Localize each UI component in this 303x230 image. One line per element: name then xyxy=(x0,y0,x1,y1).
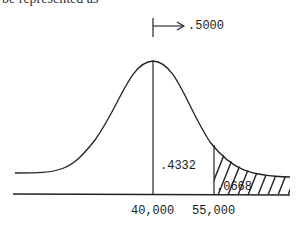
x-axis-baseline xyxy=(13,194,290,195)
x-tick-mean: 40,000 xyxy=(131,205,174,217)
annotation-tail-area: .0668 xyxy=(216,181,252,193)
annotation-middle-area: .4332 xyxy=(160,160,196,172)
normal-curve-figure xyxy=(0,0,303,230)
x-tick-cutoff: 55,000 xyxy=(192,205,235,217)
annotation-half-area: .5000 xyxy=(188,20,224,32)
